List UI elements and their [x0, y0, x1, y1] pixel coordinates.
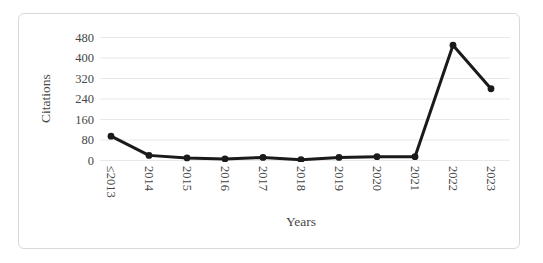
- x-category-label: 2015: [180, 166, 194, 191]
- data-point-marker: [450, 42, 457, 49]
- data-series-line: [111, 45, 491, 160]
- x-axis-title: Years: [221, 213, 381, 230]
- x-category-label: 2020: [370, 166, 384, 191]
- data-point-marker: [488, 85, 495, 92]
- data-point-marker: [260, 154, 267, 161]
- x-category-label: 2022: [446, 166, 460, 191]
- x-category-label: 2018: [294, 166, 308, 191]
- data-point-marker: [298, 156, 305, 162]
- x-category-label: 2021: [408, 166, 422, 191]
- x-category-label: ≤2013: [104, 166, 118, 198]
- data-point-marker: [146, 152, 153, 159]
- data-point-marker: [108, 133, 115, 140]
- data-point-marker: [374, 153, 381, 160]
- data-point-marker: [222, 156, 229, 162]
- y-axis-title: Citations: [38, 39, 53, 159]
- x-category-label: 2016: [218, 166, 232, 191]
- data-point-marker: [184, 155, 191, 162]
- x-category-label: 2014: [142, 166, 156, 191]
- citations-chart: 080160240320400480 ≤20132014201520162017…: [0, 0, 543, 263]
- x-category-label: 2023: [484, 166, 498, 191]
- data-point-marker: [412, 153, 419, 160]
- x-category-label: 2017: [256, 166, 270, 191]
- x-category-label: 2019: [332, 166, 346, 191]
- plot-area: [92, 36, 510, 162]
- data-point-marker: [336, 154, 343, 161]
